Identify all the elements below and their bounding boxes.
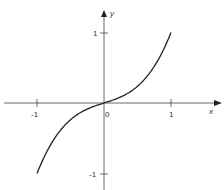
x-tick-label-neg1: -1 <box>31 110 39 119</box>
x-tick-label-1: 1 <box>169 110 174 119</box>
chart: -1 0 1 1 -1 x y <box>0 0 224 190</box>
y-tick-label-neg1: -1 <box>89 170 97 179</box>
y-axis-label: y <box>109 9 115 18</box>
y-tick-label-1: 1 <box>93 29 98 38</box>
y-axis-arrow-icon <box>101 10 107 17</box>
x-axis-arrow-icon <box>214 100 222 106</box>
origin-label: 0 <box>105 110 110 119</box>
x-axis-label: x <box>208 107 214 116</box>
